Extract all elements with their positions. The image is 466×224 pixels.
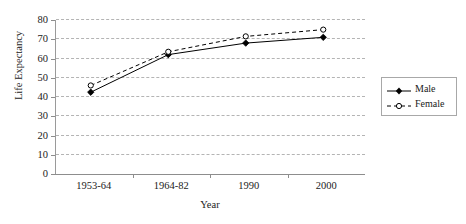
- data-point-female-1964-82: [166, 49, 171, 54]
- series-line-male: [91, 37, 323, 92]
- legend-swatch-female-icon: [386, 98, 412, 110]
- data-point-male-1990: [243, 40, 249, 46]
- legend-label-male: Male: [412, 83, 436, 94]
- legend-label-female: Female: [412, 98, 444, 109]
- data-point-male-2000: [320, 34, 326, 40]
- life-expectancy-chart: 01020304050607080 1953-641964-8219902000…: [0, 0, 466, 224]
- chart-legend: Male Female: [381, 77, 457, 116]
- data-point-female-2000: [321, 27, 326, 32]
- legend-item-male: Male: [386, 81, 452, 96]
- legend-item-female: Female: [386, 96, 452, 111]
- legend-swatch-male-icon: [386, 83, 412, 95]
- data-point-female-1990: [243, 34, 248, 39]
- data-point-female-1953-64: [88, 83, 93, 88]
- data-point-male-1953-64: [88, 89, 94, 95]
- series-line-female: [91, 30, 323, 86]
